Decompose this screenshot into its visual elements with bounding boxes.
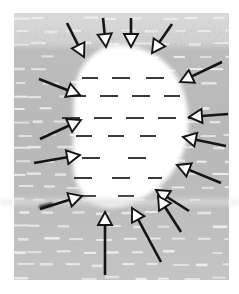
scan-seam-margin-left — [0, 199, 14, 205]
arrow-shaft — [103, 18, 105, 34]
scan-seam-margin-right — [229, 199, 239, 205]
figure-root: Inward-directed arrows converging on a h… — [0, 0, 239, 294]
hatched-plate-group — [0, 13, 239, 280]
scan-seam-band — [0, 199, 239, 205]
figure-canvas: Inward-directed arrows converging on a h… — [0, 0, 239, 294]
